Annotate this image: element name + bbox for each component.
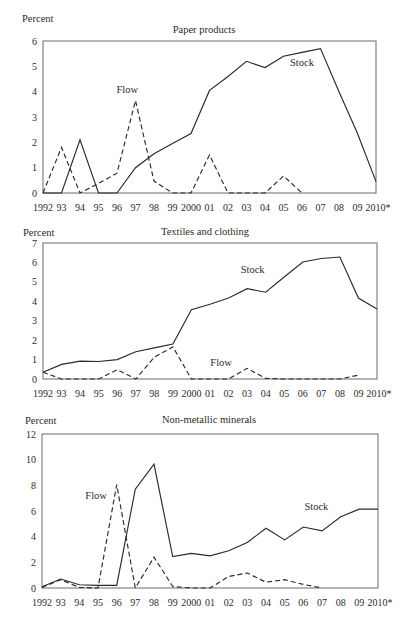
x-tick-label: 95 [94,202,104,213]
y-tick-label: 2 [32,137,37,148]
x-tick-label: 2000 [181,202,201,213]
x-tick-label: 09 [353,388,363,399]
x-tick-label: 94 [75,202,85,213]
y-tick-label: 7 [32,238,37,249]
x-tick-label: 04 [261,597,271,608]
x-tick-label: 93 [57,388,67,399]
x-tick-label: 2000 [181,388,201,399]
x-tick-label: 07 [316,202,326,213]
y-tick-label: 0 [32,374,37,385]
x-tick-label: 02 [224,597,234,608]
x-tick-label: 08 [334,202,344,213]
x-tick-label: 02 [223,202,233,213]
x-tick-label: 1992 [32,597,52,608]
x-tick-label: 03 [242,202,252,213]
y-tick-label: 6 [32,36,37,47]
x-tick-label: 94 [74,597,84,608]
x-tick-label: 01 [205,388,215,399]
flow-series-label: Flow [116,84,138,95]
y-tick-label: 2 [31,557,36,568]
x-tick-label: 97 [131,388,141,399]
stock-series-label: Stock [290,57,315,68]
y-tick-label: 3 [32,112,37,123]
x-tick-label: 06 [298,388,308,399]
plot-frame [43,41,376,193]
x-tick-label: 01 [205,597,215,608]
y-tick-label: 12 [26,429,36,440]
chart-paper-products: Percent Paper products 01234561992939495… [22,13,391,213]
x-tick-label: 03 [242,597,252,608]
x-tick-label: 98 [149,388,159,399]
x-tick-label: 99 [168,388,178,399]
x-tick-label: 2000 [181,597,201,608]
stock-series-line [43,257,377,372]
stock-series-line [42,464,378,587]
stock-series-label: Stock [304,501,329,512]
x-tick-label: 93 [57,202,67,213]
x-tick-label: 02 [224,388,234,399]
chart-title: Paper products [173,24,236,35]
x-tick-label: 98 [149,597,159,608]
y-tick-label: 6 [31,506,36,517]
stock-series-label: Stock [241,264,266,275]
chart-title: Textiles and clothing [161,226,250,237]
x-tick-label: 1992 [33,388,53,399]
stock-series-line [43,49,376,193]
chart-non-metallic-minerals: Percent Non-metallic minerals 0246810121… [25,414,393,608]
flow-series-line [43,347,358,379]
x-tick-label: 96 [112,388,122,399]
y-tick-label: 3 [32,315,37,326]
x-tick-label: 08 [335,388,345,399]
x-tick-label: 07 [317,597,327,608]
x-tick-label: 96 [112,202,122,213]
y-tick-label: 4 [32,296,37,307]
plot-area: 0123456719929394959697989920000102030405… [32,238,392,400]
y-tick-label: 2 [32,335,37,346]
plot-area: 0123456199293949596979899200001020304050… [32,36,391,214]
flow-series-label: Flow [210,357,232,368]
chart-title: Non-metallic minerals [162,414,256,425]
x-tick-label: 95 [93,597,103,608]
x-tick-label: 06 [297,202,307,213]
x-tick-label: 05 [279,202,289,213]
x-tick-label: 93 [56,597,66,608]
x-tick-label: 95 [94,388,104,399]
x-tick-label: 08 [336,597,346,608]
y-tick-label: 0 [31,583,36,594]
x-tick-label: 2010* [368,597,393,608]
x-tick-label: 04 [261,388,271,399]
x-tick-label: 05 [280,597,290,608]
chart-textiles-clothing: Percent Textiles and clothing 0123456719… [23,226,392,399]
plot-area: 0246810121992939495969798992000010203040… [26,429,393,609]
x-tick-label: 99 [168,597,178,608]
x-tick-label: 05 [279,388,289,399]
y-tick-label: 1 [32,354,37,365]
x-tick-label: 99 [168,202,178,213]
x-tick-label: 1992 [33,202,53,213]
y-tick-label: 1 [32,162,37,173]
x-tick-label: 09 [354,597,364,608]
y-tick-label: 4 [31,531,36,542]
y-tick-label: 8 [31,480,36,491]
y-tick-label: 6 [32,257,37,268]
x-tick-label: 06 [298,597,308,608]
x-tick-label: 96 [112,597,122,608]
x-tick-label: 07 [316,388,326,399]
x-tick-label: 97 [130,597,140,608]
x-tick-label: 09 [353,202,363,213]
y-tick-label: 4 [32,86,37,97]
x-tick-label: 97 [131,202,141,213]
x-tick-label: 2010* [367,388,392,399]
y-tick-label: 5 [32,276,37,287]
x-tick-label: 2010* [366,202,391,213]
y-tick-label: 10 [26,454,36,465]
y-tick-label: 0 [32,188,37,199]
x-tick-label: 03 [242,388,252,399]
x-tick-label: 01 [205,202,215,213]
x-tick-label: 04 [260,202,270,213]
figure-canvas: Percent Paper products 01234561992939495… [0,0,409,619]
y-axis-label: Percent [22,13,54,24]
flow-series-label: Flow [85,490,107,501]
y-tick-label: 5 [32,61,37,72]
x-tick-label: 98 [149,202,159,213]
